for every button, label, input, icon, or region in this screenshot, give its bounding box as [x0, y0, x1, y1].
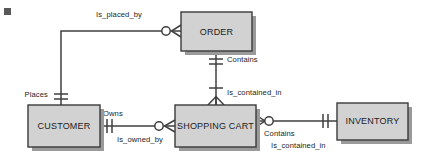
relationship-label-is-contained-in-inventory: Is_contained_in [271, 141, 326, 150]
relationship-label-owns: Owns [103, 109, 123, 118]
entity-inventory[interactable]: INVENTORY [337, 103, 412, 144]
relationship-label-is-contained-in-cart: Is_contained_in [227, 88, 282, 97]
relationship-customer-shopping-cart: Owns Is_owned_by [100, 109, 175, 144]
entity-shopping-cart[interactable]: SHOPPING CART [175, 105, 260, 151]
entity-customer[interactable]: CUSTOMER [28, 105, 104, 151]
cardinality-zero-or-more-is-placed-by [162, 25, 181, 37]
relationship-customer-order: Is_placed_by Places [25, 10, 181, 105]
entity-order-label: ORDER [200, 27, 234, 37]
relationship-label-is-placed-by: Is_placed_by [96, 10, 142, 19]
relationship-line-customer-order [61, 31, 166, 105]
relationship-order-shopping-cart: Contains Is_contained_in [208, 51, 282, 105]
entity-order[interactable]: ORDER [181, 12, 256, 55]
page-corner-mark [4, 8, 11, 15]
relationship-label-contains-order: Contains [227, 55, 258, 64]
relationship-label-is-owned-by: Is_owned_by [117, 135, 163, 144]
entity-inventory-label: INVENTORY [346, 116, 400, 126]
er-diagram-svg: Is_placed_by Places Contains Is_containe… [0, 0, 421, 165]
relationship-shopping-cart-inventory: Contains Is_contained_in [256, 114, 337, 150]
cardinality-zero-or-more-is-owned-by [155, 120, 175, 132]
er-diagram-canvas: Is_placed_by Places Contains Is_containe… [0, 0, 421, 165]
relationship-label-places: Places [25, 90, 48, 99]
entity-shopping-cart-label: SHOPPING CART [177, 121, 254, 131]
entity-customer-label: CUSTOMER [38, 121, 91, 131]
relationship-label-contains-inventory: Contains [264, 129, 295, 138]
